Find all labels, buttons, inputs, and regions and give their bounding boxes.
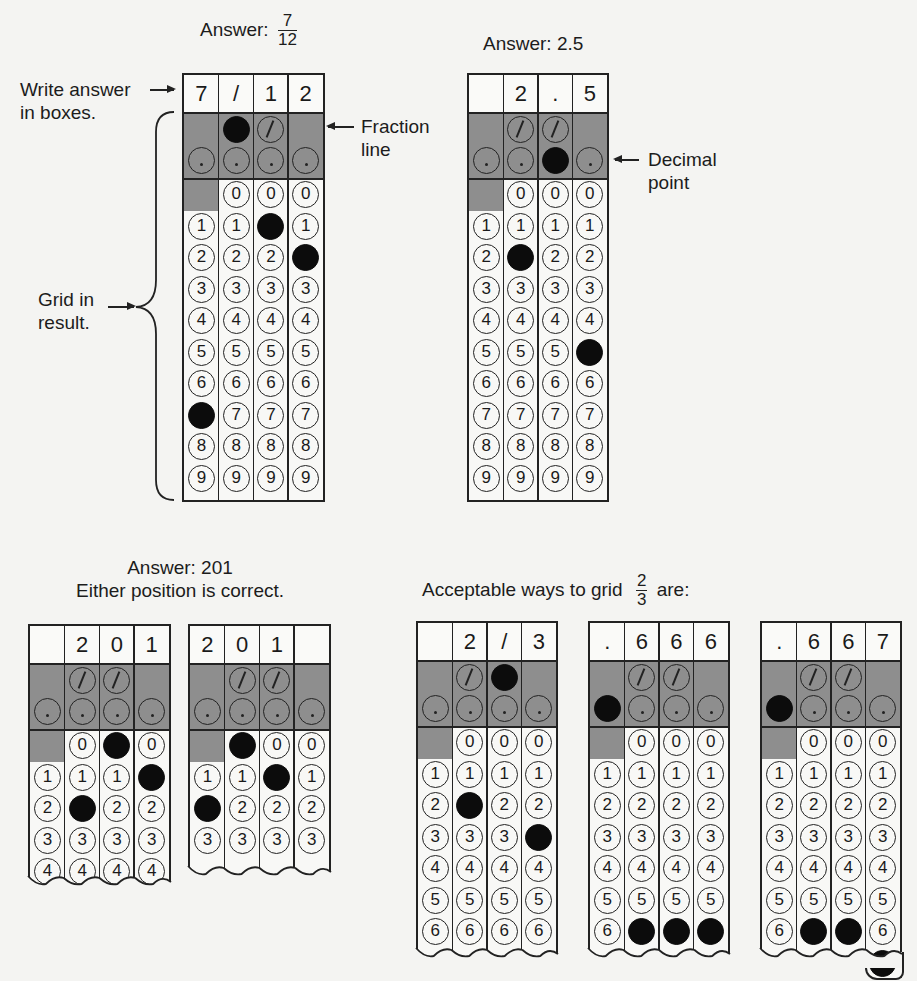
digit-bubble-2[interactable]: 2: [223, 244, 250, 271]
digit-bubble-1[interactable]: 1: [103, 764, 130, 791]
digit-bubble-3[interactable]: 3: [223, 276, 250, 303]
digit-bubble-2[interactable]: 2: [663, 792, 690, 819]
digit-bubble-2[interactable]: 2: [473, 244, 500, 271]
decimal-bubble[interactable]: [594, 695, 621, 722]
digit-bubble-5[interactable]: 5: [766, 887, 793, 914]
decimal-bubble[interactable]: [292, 147, 319, 174]
digit-bubble-3[interactable]: 3: [188, 276, 215, 303]
digit-bubble-1[interactable]: 1: [766, 761, 793, 788]
digit-bubble-6[interactable]: 6: [491, 918, 518, 945]
digit-bubble-1[interactable]: 1: [69, 764, 96, 791]
digit-bubble-3[interactable]: 3: [835, 824, 862, 851]
digit-bubble-4[interactable]: 4: [663, 855, 690, 882]
digit-bubble-2[interactable]: 2: [576, 244, 603, 271]
digit-bubble-5[interactable]: 5: [507, 339, 534, 366]
answer-box[interactable]: 5: [573, 75, 608, 112]
digit-bubble-5[interactable]: 5: [869, 887, 896, 914]
digit-bubble-7[interactable]: 7: [507, 402, 534, 429]
digit-bubble-6[interactable]: 6: [507, 370, 534, 397]
digit-bubble-8[interactable]: 8: [292, 433, 319, 460]
digit-bubble-0[interactable]: 0: [69, 732, 96, 759]
digit-bubble-2[interactable]: 2: [298, 795, 325, 822]
slash-bubble[interactable]: [223, 116, 250, 143]
digit-bubble-6[interactable]: [663, 918, 690, 945]
answer-box[interactable]: 1: [260, 626, 295, 663]
digit-bubble-1[interactable]: 1: [576, 213, 603, 240]
digit-bubble-3[interactable]: [525, 824, 552, 851]
digit-bubble-5[interactable]: 5: [473, 339, 500, 366]
decimal-bubble[interactable]: [663, 695, 690, 722]
digit-bubble-9[interactable]: 9: [507, 465, 534, 492]
digit-bubble-9[interactable]: 9: [257, 465, 284, 492]
decimal-bubble[interactable]: [473, 147, 500, 174]
digit-bubble-6[interactable]: 6: [473, 370, 500, 397]
digit-bubble-6[interactable]: 6: [257, 370, 284, 397]
digit-bubble-5[interactable]: 5: [456, 887, 483, 914]
answer-box[interactable]: 2: [288, 75, 323, 112]
digit-bubble-4[interactable]: 4: [628, 855, 655, 882]
digit-bubble-4[interactable]: 4: [491, 855, 518, 882]
decimal-bubble[interactable]: [422, 695, 449, 722]
digit-bubble-6[interactable]: 6: [422, 918, 449, 945]
digit-bubble-2[interactable]: 2: [800, 792, 827, 819]
decimal-bubble[interactable]: [138, 698, 165, 725]
digit-bubble-3[interactable]: 3: [576, 276, 603, 303]
digit-bubble-2[interactable]: 2: [594, 792, 621, 819]
digit-bubble-0[interactable]: 0: [576, 181, 603, 208]
digit-bubble-6[interactable]: 6: [456, 918, 483, 945]
digit-bubble-2[interactable]: 2: [628, 792, 655, 819]
digit-bubble-5[interactable]: 5: [525, 887, 552, 914]
digit-bubble-0[interactable]: 0: [542, 181, 569, 208]
digit-bubble-1[interactable]: 1: [229, 764, 256, 791]
digit-bubble-4[interactable]: 4: [697, 855, 724, 882]
digit-bubble-0[interactable]: 0: [628, 729, 655, 756]
digit-bubble-6[interactable]: [628, 918, 655, 945]
digit-bubble-2[interactable]: 2: [835, 792, 862, 819]
answer-box[interactable]: 6: [694, 623, 729, 660]
digit-bubble-6[interactable]: 6: [594, 918, 621, 945]
digit-bubble-6[interactable]: [697, 918, 724, 945]
decimal-bubble[interactable]: [835, 695, 862, 722]
digit-bubble-0[interactable]: 0: [800, 729, 827, 756]
digit-bubble-2[interactable]: [456, 792, 483, 819]
digit-bubble-2[interactable]: 2: [525, 792, 552, 819]
decimal-bubble[interactable]: [223, 147, 250, 174]
decimal-bubble[interactable]: [194, 698, 221, 725]
digit-bubble-5[interactable]: 5: [663, 887, 690, 914]
digit-bubble-8[interactable]: 8: [542, 433, 569, 460]
digit-bubble-9[interactable]: 9: [542, 465, 569, 492]
answer-box[interactable]: 2: [453, 623, 488, 660]
answer-box[interactable]: 2: [504, 75, 539, 112]
decimal-bubble[interactable]: [188, 147, 215, 174]
digit-bubble-1[interactable]: 1: [663, 761, 690, 788]
digit-bubble-7[interactable]: 7: [542, 402, 569, 429]
digit-bubble-5[interactable]: 5: [800, 887, 827, 914]
digit-bubble-7[interactable]: 7: [473, 402, 500, 429]
digit-bubble-2[interactable]: 2: [542, 244, 569, 271]
digit-bubble-3[interactable]: 3: [869, 824, 896, 851]
digit-bubble-6[interactable]: 6: [188, 370, 215, 397]
decimal-bubble[interactable]: [69, 698, 96, 725]
digit-bubble-3[interactable]: 3: [594, 824, 621, 851]
digit-bubble-1[interactable]: 1: [298, 764, 325, 791]
digit-bubble-2[interactable]: [194, 795, 221, 822]
digit-bubble-0[interactable]: 0: [491, 729, 518, 756]
digit-bubble-0[interactable]: 0: [835, 729, 862, 756]
digit-bubble-3[interactable]: 3: [800, 824, 827, 851]
digit-bubble-5[interactable]: 5: [257, 339, 284, 366]
digit-bubble-1[interactable]: 1: [473, 213, 500, 240]
digit-bubble-3[interactable]: 3: [542, 276, 569, 303]
digit-bubble-6[interactable]: 6: [223, 370, 250, 397]
digit-bubble-1[interactable]: [263, 764, 290, 791]
digit-bubble-8[interactable]: 8: [507, 433, 534, 460]
digit-bubble-0[interactable]: 0: [257, 181, 284, 208]
digit-bubble-1[interactable]: 1: [697, 761, 724, 788]
digit-bubble-2[interactable]: 2: [491, 792, 518, 819]
digit-bubble-4[interactable]: 4: [292, 307, 319, 334]
digit-bubble-0[interactable]: 0: [263, 732, 290, 759]
answer-box[interactable]: 6: [831, 623, 866, 660]
digit-bubble-3[interactable]: 3: [697, 824, 724, 851]
digit-bubble-3[interactable]: 3: [507, 276, 534, 303]
digit-bubble-5[interactable]: 5: [223, 339, 250, 366]
digit-bubble-1[interactable]: [257, 213, 284, 240]
